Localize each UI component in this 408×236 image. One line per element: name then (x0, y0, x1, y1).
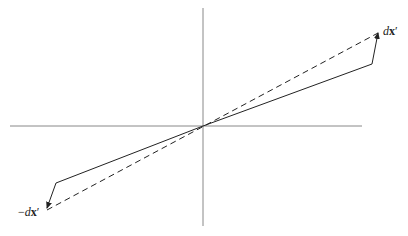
lower-vector-path (47, 126, 203, 208)
label-prime: ′ (395, 24, 398, 38)
diagram-canvas: dx′ −dx′ (0, 0, 408, 236)
label-minus: − (18, 205, 25, 219)
label-neg-dx-prime: −dx′ (18, 206, 39, 218)
label-dx-prime: dx′ (383, 25, 398, 37)
vector-diagram (0, 0, 408, 236)
dashed-diagonal-line (47, 33, 378, 210)
label-prime: ′ (37, 205, 40, 219)
